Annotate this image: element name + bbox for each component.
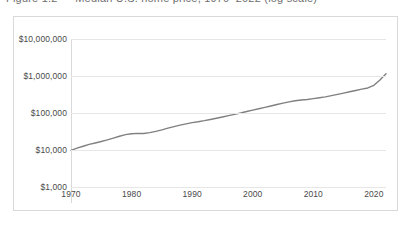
gridline-y	[71, 113, 386, 114]
clipped-caption-text: Figure 1.2 — Median U.S. home price, 197…	[6, 0, 317, 4]
x-axis-tick-label: 2010	[304, 189, 323, 199]
gridline-y	[71, 39, 386, 40]
gridline-y	[71, 187, 386, 188]
plot-area	[71, 39, 386, 187]
gridline-y	[71, 76, 386, 77]
x-axis-tick-label: 1970	[61, 189, 80, 199]
x-axis-tick-label: 1990	[182, 189, 201, 199]
gridline-y	[71, 150, 386, 151]
x-axis-tick-label: 1980	[122, 189, 141, 199]
y-axis-tick-label: $10,000,000	[19, 34, 67, 44]
y-axis-tick-label: $1,000,000	[23, 71, 67, 81]
y-axis-tick-labels: $10,000,000$1,000,000$100,000$10,000$1,0…	[14, 17, 67, 210]
chart-frame: $10,000,000$1,000,000$100,000$10,000$1,0…	[13, 16, 398, 211]
y-axis-tick-label: $10,000	[36, 145, 67, 155]
clipped-caption-band: Figure 1.2 — Median U.S. home price, 197…	[0, 0, 414, 9]
x-axis-tick-label: 2000	[243, 189, 262, 199]
x-axis-tick-label: 2020	[364, 189, 383, 199]
y-axis-tick-label: $100,000	[31, 108, 67, 118]
